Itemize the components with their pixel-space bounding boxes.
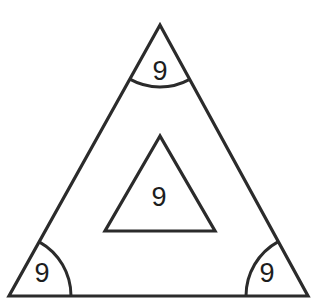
bottom-left-angle-label: 9 [34,258,49,288]
diagram-background [0,0,333,306]
diagram-canvas: 9 9 9 9 [0,0,333,306]
inner-triangle-label: 9 [151,182,166,212]
bottom-right-angle-label: 9 [259,258,274,288]
triangle-diagram: 9 9 9 9 [0,0,333,306]
apex-angle-label: 9 [152,56,167,86]
